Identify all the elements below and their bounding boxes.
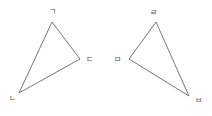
triangles-diagram: ㄱ ㄷ ㄴ ㄹ ㅁ ㅂ — [0, 0, 212, 116]
left-triangle — [19, 22, 80, 93]
vertex-label-nieun: ㄴ — [9, 94, 16, 103]
vertex-label-digeut: ㄷ — [86, 55, 93, 64]
right-triangle — [129, 22, 189, 96]
vertex-label-bieup: ㅂ — [195, 96, 202, 105]
vertex-label-mieum: ㅁ — [114, 55, 121, 64]
vertex-label-giyeok: ㄱ — [49, 7, 56, 16]
vertex-label-rieul: ㄹ — [150, 8, 157, 17]
